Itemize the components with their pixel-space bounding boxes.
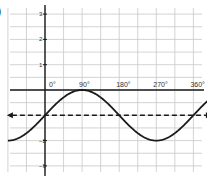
y-tick-label: 1 [39,62,42,68]
x-tick-label: 270° [153,81,167,88]
arrow-right-icon [206,112,207,118]
x-tick-label: 360° [190,81,204,88]
x-tick-label: 90° [79,81,90,88]
sine-graph [0,0,207,178]
y-tick-label: 3 [39,11,42,17]
y-tick-label: −3 [39,163,46,169]
y-tick-label: −2 [39,138,46,144]
y-tick-label: 2 [39,36,42,42]
x-tick-label: 180° [116,81,130,88]
x-tick-label: 0° [49,81,56,88]
